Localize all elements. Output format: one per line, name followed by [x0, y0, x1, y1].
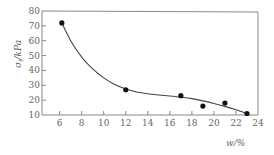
- x-tick-label: 10: [98, 118, 110, 128]
- y-tick-label: 30: [29, 80, 41, 90]
- data-points: [59, 20, 249, 116]
- y-tick-label: 60: [29, 36, 41, 46]
- x-tick-label: 14: [142, 118, 154, 128]
- x-tick-label: 8: [79, 118, 85, 128]
- y-tick-label: 40: [29, 65, 41, 75]
- y-axis: 1020304050607080: [29, 6, 46, 120]
- data-point: [123, 87, 128, 92]
- y-tick-label: 50: [29, 51, 41, 61]
- x-axis: 681012141618202224: [57, 111, 264, 128]
- y-axis-title: σt/kPa: [13, 40, 24, 68]
- x-tick-label: 24: [252, 118, 264, 128]
- data-point: [244, 111, 249, 116]
- x-tick-label: 18: [186, 118, 198, 128]
- chart: 1020304050607080 681012141618202224 w/% …: [0, 0, 274, 155]
- y-tick-label: 80: [29, 6, 41, 16]
- data-point: [178, 93, 183, 98]
- x-tick-label: 16: [164, 118, 176, 128]
- x-tick-label: 20: [208, 118, 220, 128]
- plot-frame: [42, 11, 258, 115]
- x-tick-label: 6: [57, 118, 63, 128]
- y-tick-label: 20: [29, 95, 41, 105]
- fitted-curve: [62, 23, 247, 114]
- y-tick-label: 70: [29, 21, 41, 31]
- data-point: [59, 20, 64, 25]
- x-axis-title: w/%: [226, 138, 245, 148]
- x-tick-label: 12: [120, 118, 131, 128]
- data-point: [222, 101, 227, 106]
- x-tick-label: 22: [230, 118, 241, 128]
- y-tick-label: 10: [29, 110, 41, 120]
- data-point: [200, 103, 205, 108]
